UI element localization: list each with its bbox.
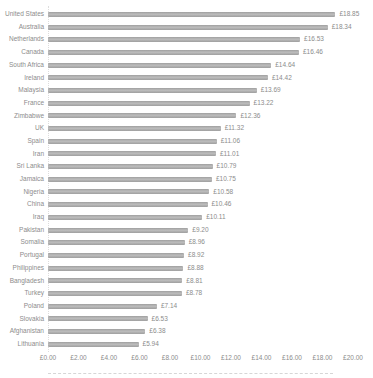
category-label: Australia [0, 24, 44, 31]
category-label: Netherlands [0, 36, 44, 43]
value-label: £10.75 [216, 176, 236, 183]
bottom-divider [48, 373, 333, 374]
bar [48, 50, 299, 55]
x-axis-tick-label: £4.00 [101, 355, 117, 362]
bar [48, 304, 157, 309]
bar-rows: United States£18.85Australia£18.34Nether… [0, 8, 373, 351]
bar-row: Australia£18.34 [0, 21, 373, 34]
value-label: £13.69 [261, 87, 281, 94]
bar-row: Zimbabwe£12.36 [0, 110, 373, 123]
bar-row: Poland£7.14 [0, 300, 373, 313]
bar-row: South Africa£14.64 [0, 59, 373, 72]
x-axis-tick-label: £6.00 [131, 355, 147, 362]
category-label: Nigeria [0, 189, 44, 196]
value-label: £18.85 [339, 11, 359, 18]
value-label: £8.81 [186, 278, 202, 285]
bar-track: £14.64 [48, 62, 373, 69]
bar-track: £18.34 [48, 24, 373, 31]
bar [48, 164, 213, 169]
category-label: Pakistan [0, 227, 44, 234]
bar [48, 316, 148, 321]
bar-row: Netherlands£16.53 [0, 33, 373, 46]
bar [48, 37, 300, 42]
category-label: Slovakia [0, 316, 44, 323]
x-axis-tick-label: £14.00 [252, 355, 272, 362]
bar [48, 278, 182, 283]
bar-row: Afghanistan£6.38 [0, 325, 373, 338]
category-label: France [0, 100, 44, 107]
category-label: Afghanistan [0, 328, 44, 335]
value-label: £8.88 [187, 265, 203, 272]
bar-row: Philippines£8.88 [0, 262, 373, 275]
bar-row: Iran£11.01 [0, 148, 373, 161]
bar-track: £10.75 [48, 176, 373, 183]
bar [48, 126, 221, 131]
category-label: Sri Lanka [0, 163, 44, 170]
bar-track: £11.32 [48, 125, 373, 132]
bar-track: £10.58 [48, 189, 373, 196]
bar-track: £11.01 [48, 151, 373, 158]
value-label: £16.53 [304, 36, 324, 43]
value-label: £11.01 [220, 151, 239, 158]
bar [48, 75, 268, 80]
bar-track: £11.06 [48, 138, 373, 145]
category-label: Jamaica [0, 176, 44, 183]
x-axis-tick-label: £20.00 [343, 355, 363, 362]
bar-row: Iraq£10.11 [0, 211, 373, 224]
category-label: Philippines [0, 265, 44, 272]
value-label: £10.11 [206, 214, 225, 221]
value-label: £10.58 [213, 189, 233, 196]
bar [48, 266, 183, 271]
category-label: Canada [0, 49, 44, 56]
value-label: £14.42 [272, 75, 292, 82]
bar-track: £5.94 [48, 341, 373, 348]
value-label: £10.79 [217, 163, 237, 170]
value-label: £7.14 [161, 303, 177, 310]
bar-track: £6.53 [48, 316, 373, 323]
value-label: £11.06 [221, 138, 240, 145]
category-label: Turkey [0, 290, 44, 297]
value-label: £5.94 [143, 341, 159, 348]
bar-track: £10.79 [48, 163, 373, 170]
bar-track: £6.38 [48, 328, 373, 335]
category-label: Poland [0, 303, 44, 310]
x-axis-tick-label: £16.00 [282, 355, 302, 362]
bar-row: Spain£11.06 [0, 135, 373, 148]
x-axis-tick-label: £0.00 [40, 355, 56, 362]
bar [48, 25, 328, 30]
value-label: £14.64 [275, 62, 295, 69]
bar-track: £13.22 [48, 100, 373, 107]
bar-track: £8.96 [48, 239, 373, 246]
bar-row: Bangladesh£8.81 [0, 274, 373, 287]
value-label: £10.46 [212, 201, 232, 208]
bar [48, 101, 250, 106]
category-label: China [0, 201, 44, 208]
category-label: Bangladesh [0, 278, 44, 285]
bar-chart: United States£18.85Australia£18.34Nether… [0, 0, 373, 378]
bar [48, 63, 271, 68]
value-label: £12.36 [240, 113, 260, 120]
bar-track: £9.20 [48, 227, 373, 234]
value-label: £13.22 [254, 100, 274, 107]
value-label: £18.34 [332, 24, 352, 31]
bar [48, 215, 202, 220]
bar [48, 202, 208, 207]
value-label: £8.78 [186, 290, 202, 297]
bar-row: UK£11.32 [0, 122, 373, 135]
bar-row: Slovakia£6.53 [0, 313, 373, 326]
value-label: £8.96 [189, 239, 205, 246]
x-axis-tick-label: £18.00 [313, 355, 333, 362]
bar-track: £7.14 [48, 303, 373, 310]
category-label: Lithuania [0, 341, 44, 348]
bar-row: United States£18.85 [0, 8, 373, 21]
bar-track: £12.36 [48, 113, 373, 120]
bar [48, 12, 335, 17]
category-label: South Africa [0, 62, 44, 69]
bar-track: £16.46 [48, 49, 373, 56]
bar-row: Turkey£8.78 [0, 287, 373, 300]
bar [48, 113, 236, 118]
bar [48, 329, 145, 334]
bar-row: Nigeria£10.58 [0, 186, 373, 199]
bar-track: £8.81 [48, 278, 373, 285]
bar [48, 151, 216, 156]
